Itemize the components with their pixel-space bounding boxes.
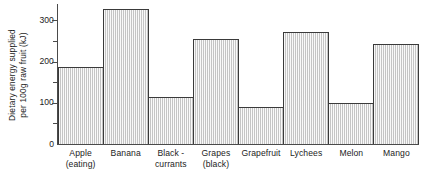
x-axis-tick-labels: Apple(eating)BananaBlack -currantsGrapes… bbox=[58, 148, 419, 169]
x-axis-tick-label-line-2: currants bbox=[148, 159, 193, 170]
x-axis-tick-label-line-1: Melon bbox=[339, 148, 363, 158]
x-axis-tick-label-line-1: Grapefruit bbox=[242, 148, 281, 158]
x-axis-line bbox=[57, 144, 419, 145]
x-axis-tick-label: Banana bbox=[103, 148, 148, 169]
x-axis-tick-label-line-1: Mango bbox=[383, 148, 410, 158]
bar-series bbox=[58, 4, 419, 144]
bar bbox=[103, 9, 149, 144]
y-axis-minor-tick bbox=[53, 41, 57, 42]
bar bbox=[193, 39, 239, 144]
x-axis-tick-label: Apple(eating) bbox=[58, 148, 103, 169]
y-axis-tick-labels: 0100200300 bbox=[28, 0, 54, 181]
bar bbox=[238, 107, 284, 144]
y-axis-title-line-2: per 100g raw fruit (kJ) bbox=[17, 29, 28, 121]
x-axis-tick-label: Melon bbox=[329, 148, 374, 169]
x-axis-tick-label: Black -currants bbox=[148, 148, 193, 169]
bar bbox=[328, 103, 374, 144]
bar bbox=[283, 32, 329, 144]
x-axis-tick-label-line-1: Banana bbox=[111, 148, 141, 158]
y-axis-tick-label: 300 bbox=[28, 16, 54, 25]
y-axis-title-line-1: Dietary energy supplied bbox=[7, 29, 18, 121]
x-axis-tick-label-line-2: (eating) bbox=[58, 159, 103, 170]
x-axis-tick-label: Grapes(black) bbox=[193, 148, 238, 169]
y-axis-minor-tick bbox=[53, 123, 57, 124]
y-axis-minor-tick bbox=[53, 82, 57, 83]
x-axis-tick-label: Grapefruit bbox=[239, 148, 284, 169]
y-axis-tick-label: 0 bbox=[28, 140, 54, 149]
bar bbox=[148, 97, 194, 144]
x-axis-tick-label-line-1: Black - bbox=[157, 148, 184, 158]
x-axis-tick-label-line-1: Lychees bbox=[290, 148, 322, 158]
x-axis-tick-label-line-1: Apple bbox=[69, 148, 91, 158]
y-axis-major-tick bbox=[52, 62, 57, 63]
y-axis-major-tick bbox=[52, 20, 57, 21]
x-axis-tick-label-line-1: Grapes bbox=[202, 148, 231, 158]
x-axis-tick-label-line-2: (black) bbox=[193, 159, 238, 170]
bar-chart: Dietary energy supplied per 100g raw fru… bbox=[0, 0, 424, 181]
bar bbox=[373, 44, 419, 144]
plot-area bbox=[57, 4, 419, 145]
y-axis-tick-label: 100 bbox=[28, 98, 54, 107]
x-axis-tick-label: Mango bbox=[374, 148, 419, 169]
x-axis-tick-label: Lychees bbox=[284, 148, 329, 169]
bar bbox=[58, 67, 104, 144]
y-axis-tick-label: 200 bbox=[28, 57, 54, 66]
y-axis-major-tick bbox=[52, 103, 57, 104]
